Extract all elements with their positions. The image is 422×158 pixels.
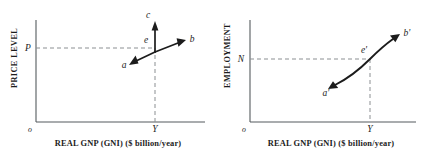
left-origin-label: o — [28, 125, 32, 134]
left-arrowhead-a — [129, 55, 139, 65]
left-x-axis-title: REAL GNP (GNI) ($ billion/year) — [55, 139, 182, 148]
left-arrowhead-b — [177, 38, 186, 47]
figure-container: PRICE LEVEL REAL GNP (GNI) ($ billion/ye… — [0, 0, 422, 158]
left-x-tick-label: Y — [152, 124, 159, 134]
left-vector-to-a — [136, 52, 155, 61]
left-arrowhead-c — [152, 21, 159, 31]
left-y-axis-title: PRICE LEVEL — [10, 28, 19, 88]
right-y-axis-title: EMPLOYMENT — [223, 23, 232, 88]
right-origin-label: o — [242, 125, 246, 134]
right-x-axis-title: REAL GNP (GNI) ($ billion/year) — [268, 139, 395, 148]
chart-panel-price-level: PRICE LEVEL REAL GNP (GNI) ($ billion/ye… — [0, 0, 211, 158]
right-y-tick-label: N — [237, 54, 245, 64]
right-point-label-a-prime: a' — [323, 88, 331, 98]
left-point-label-c: c — [146, 10, 151, 20]
left-point-label-a: a — [122, 60, 127, 70]
left-point-label-b: b — [190, 34, 195, 44]
left-y-tick-label: P — [24, 43, 31, 53]
right-point-label-e-prime: e' — [361, 45, 368, 55]
left-point-label-e: e — [144, 35, 148, 45]
chart-panel-employment: EMPLOYMENT REAL GNP (GNI) ($ billion/yea… — [211, 0, 422, 158]
right-x-tick-label: Y — [367, 124, 374, 134]
right-point-label-b-prime: b' — [404, 28, 412, 38]
left-vector-to-b — [155, 43, 178, 52]
